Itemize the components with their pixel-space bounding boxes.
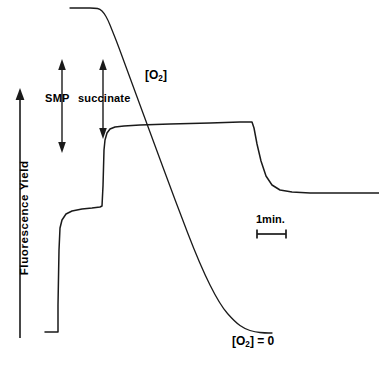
oxygen-zero-label: [O2] = 0	[232, 335, 274, 349]
oxygen-label-prefix: [O	[145, 68, 158, 82]
oxygen-zero-label-suffix: ] = 0	[250, 334, 274, 348]
oxygen-label-suffix: ]	[163, 68, 167, 82]
oxygen-trace	[70, 8, 272, 333]
smp-marker-arrow	[58, 59, 66, 153]
fluorescence-trace	[45, 122, 379, 332]
figure-container: Fluorescence Yield SMP succinate [O2] [O…	[0, 0, 379, 370]
time-scale-bar	[257, 230, 286, 239]
scale-bar-label: 1min.	[256, 214, 285, 225]
succinate-label: succinate	[78, 93, 131, 104]
plot-canvas	[0, 0, 379, 370]
oxygen-label: [O2]	[145, 69, 167, 83]
smp-label: SMP	[45, 93, 70, 104]
y-axis-label: Fluorescence Yield	[19, 148, 31, 288]
oxygen-zero-label-prefix: [O	[232, 334, 245, 348]
